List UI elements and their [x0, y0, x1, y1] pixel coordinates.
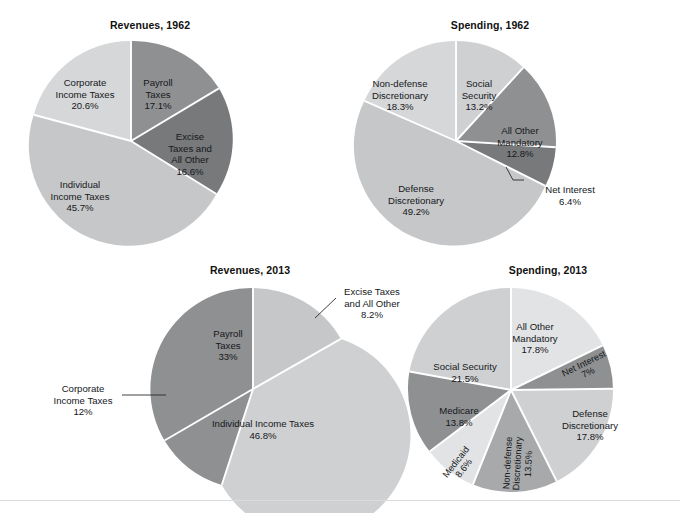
callout-label-text: Corporate Income Taxes	[53, 383, 112, 405]
callout-label-corporate-income-taxes-2013: Corporate Income Taxes 12%	[28, 372, 138, 429]
chart-title-spending-2013: Spending, 2013	[448, 264, 648, 276]
chart-title-revenues-1962: Revenues, 1962	[20, 19, 280, 31]
callout-value-text: 12%	[28, 406, 138, 417]
bottom-divider	[0, 500, 680, 501]
panel-spending-2013: Spending, 2013	[340, 255, 680, 510]
callout-label-net-interest-1962: Net Interest 6.4%	[526, 173, 614, 219]
panel-spending-1962: Spending, 1962 Social Security 13.2%	[340, 0, 680, 255]
slice-label-non-defense-discretionary-2013: Non-defense Discretionary 13.5%	[489, 414, 547, 513]
pie-revenues-1962	[28, 38, 234, 244]
chart-title-spending-1962: Spending, 1962	[360, 19, 620, 31]
panel-revenues-2013: Revenues, 2013 Payroll Taxes 33% Individ…	[0, 255, 340, 510]
callout-value-text: 6.4%	[526, 196, 614, 207]
panel-revenues-1962: Revenues, 1962 Payroll Taxes 17.1% Excis…	[0, 0, 340, 255]
slice-label-text: Non-defense Discretionary	[501, 436, 524, 490]
slice-value-text: 13.5%	[521, 416, 537, 512]
callout-label-text: Net Interest	[545, 184, 595, 195]
